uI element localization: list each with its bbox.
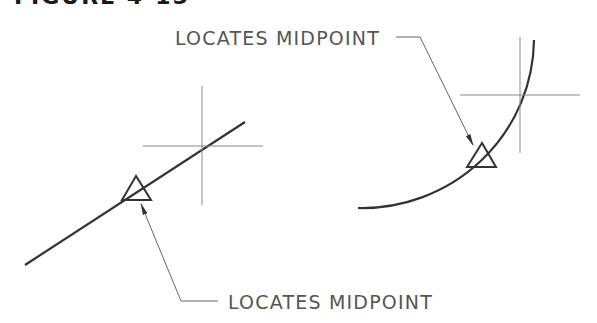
object-line xyxy=(25,122,245,265)
object-arc xyxy=(358,40,534,208)
midpoint-marker-icon xyxy=(122,176,151,200)
label-bottom: LOCATES MIDPOINT xyxy=(228,291,433,313)
arc-midpoint-drawing: LOCATES MIDPOINT xyxy=(175,27,580,208)
crosshair-cursor-left xyxy=(143,86,263,205)
midpoint-marker-icon xyxy=(467,143,496,167)
leader-line-bottom xyxy=(141,204,218,301)
crosshair-cursor-right xyxy=(460,37,580,153)
line-midpoint-drawing: LOCATES MIDPOINT xyxy=(25,86,433,313)
diagram-canvas: LOCATES MIDPOINT LOCATES MIDPOINT xyxy=(0,0,597,323)
label-top: LOCATES MIDPOINT xyxy=(175,27,380,49)
leader-line-top xyxy=(396,37,473,145)
